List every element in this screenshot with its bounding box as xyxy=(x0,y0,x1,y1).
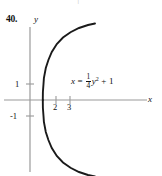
parabola-lower-branch xyxy=(43,100,95,176)
parabola-plot xyxy=(0,0,162,176)
parabola-figure: | 40. y x 2 3 1 -1 x = 1 4 y 2 + 1 xyxy=(0,0,162,176)
parabola-upper-branch xyxy=(43,24,95,101)
